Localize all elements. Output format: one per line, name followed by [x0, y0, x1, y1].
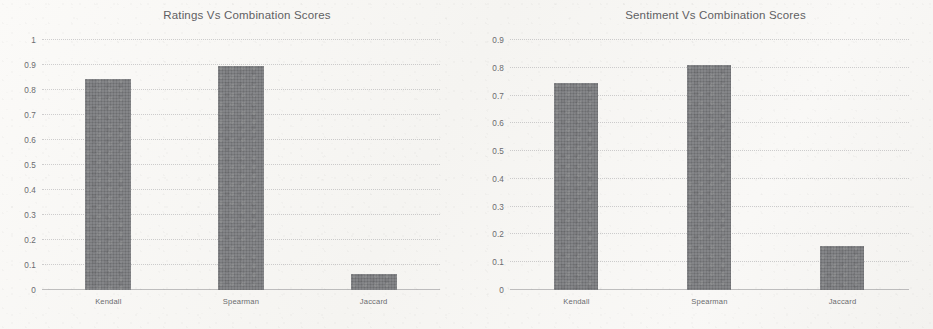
y-axis-tick-label: 0 [499, 286, 504, 295]
plot-area: 00.10.20.30.40.50.60.70.80.9 KendallSpea… [510, 40, 909, 290]
y-axis-tick-label: 0.9 [492, 36, 504, 45]
x-axis-tick-label: Kendall [563, 297, 589, 306]
bar-spearman [687, 65, 731, 290]
y-axis-tick-label: 0 [31, 286, 36, 295]
bar-group: Kendall [42, 40, 175, 290]
x-axis-tick-label: Spearman [223, 297, 259, 306]
y-axis-tick-label: 0.4 [492, 174, 504, 183]
y-axis-tick-label: 0.3 [24, 211, 36, 220]
bar-group: Kendall [510, 40, 643, 290]
x-axis-tick-label: Spearman [691, 297, 727, 306]
y-axis-tick-label: 0.3 [492, 202, 504, 211]
chart-title: Sentiment Vs Combination Scores [466, 9, 933, 21]
chart-ratings-vs-combination-scores: Ratings Vs Combination Scores 00.10.20.3… [0, 0, 466, 329]
chart-title: Ratings Vs Combination Scores [0, 9, 480, 21]
bar-jaccard [820, 246, 864, 290]
bar-spearman [218, 66, 264, 290]
chart-sentiment-vs-combination-scores: Sentiment Vs Combination Scores 00.10.20… [466, 0, 933, 329]
y-axis-tick-label: 0.4 [24, 186, 36, 195]
y-axis-tick-label: 0.7 [492, 91, 504, 100]
bar-group: Spearman [175, 40, 308, 290]
bar-series: KendallSpearmanJaccard [42, 40, 440, 290]
bar-group: Jaccard [307, 40, 440, 290]
y-axis-tick-label: 0.9 [24, 61, 36, 70]
bar-jaccard [351, 274, 397, 290]
bar-series: KendallSpearmanJaccard [510, 40, 909, 290]
bar-group: Jaccard [776, 40, 909, 290]
y-axis-tick-label: 0.1 [492, 258, 504, 267]
y-axis-tick-label: 0.7 [24, 111, 36, 120]
x-axis-tick-label: Kendall [95, 297, 121, 306]
y-axis-tick-label: 0.2 [492, 230, 504, 239]
y-axis-tick-label: 0.2 [24, 236, 36, 245]
bar-kendall [85, 79, 131, 290]
y-axis-tick-label: 0.6 [24, 136, 36, 145]
y-axis-tick-label: 0.6 [492, 119, 504, 128]
bar-kendall [554, 83, 598, 290]
bar-group: Spearman [643, 40, 776, 290]
y-axis-tick-label: 0.1 [24, 261, 36, 270]
x-axis-tick-label: Jaccard [360, 297, 388, 306]
y-axis-tick-label: 0.8 [24, 86, 36, 95]
y-axis-tick-label: 0.5 [492, 147, 504, 156]
plot-area: 00.10.20.30.40.50.60.70.80.91 KendallSpe… [42, 40, 440, 290]
y-axis-tick-label: 0.5 [24, 161, 36, 170]
chart-pair-figure: Ratings Vs Combination Scores 00.10.20.3… [0, 0, 933, 329]
x-axis-tick-label: Jaccard [829, 297, 857, 306]
y-axis-tick-label: 0.8 [492, 63, 504, 72]
y-axis-tick-label: 1 [31, 36, 36, 45]
